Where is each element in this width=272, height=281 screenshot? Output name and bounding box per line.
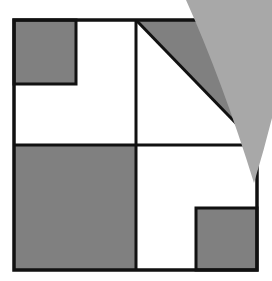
shaded-top-left-square	[14, 20, 76, 84]
diagram-canvas	[0, 0, 272, 281]
shaded-bottom-left-quadrant	[14, 145, 136, 270]
quadrant-diagram	[0, 0, 272, 281]
shaded-bottom-right-square	[196, 208, 257, 270]
